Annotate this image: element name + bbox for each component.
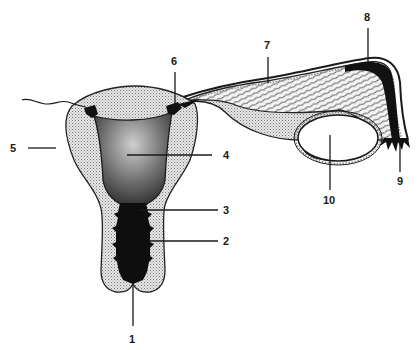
fimbriae-shape <box>380 138 410 152</box>
label-2: 2 <box>223 235 229 247</box>
label-5: 5 <box>10 142 16 154</box>
label-3: 3 <box>223 204 229 216</box>
uterus-diagram: 1 2 3 4 5 6 7 8 9 10 <box>0 0 420 350</box>
label-6: 6 <box>171 55 177 67</box>
label-9: 9 <box>397 175 403 187</box>
ovary-shape <box>294 111 382 165</box>
label-8: 8 <box>364 11 370 23</box>
number-labels: 1 2 3 4 5 6 7 8 9 10 <box>10 11 403 345</box>
label-4: 4 <box>223 149 230 161</box>
label-7: 7 <box>264 39 270 51</box>
label-1: 1 <box>129 333 135 345</box>
label-10: 10 <box>323 194 335 206</box>
